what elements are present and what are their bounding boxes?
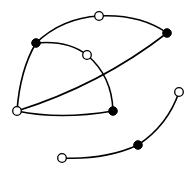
hollow-node-n7 bbox=[58, 154, 67, 163]
filled-node-n6 bbox=[109, 107, 118, 116]
edge-layer bbox=[17, 16, 179, 158]
node-layer bbox=[13, 12, 184, 163]
hollow-node-n5 bbox=[13, 107, 22, 116]
filled-node-n3 bbox=[163, 29, 172, 38]
filled-node-n8 bbox=[134, 141, 143, 150]
hollow-node-n4 bbox=[83, 51, 92, 60]
edge-n5-n6 bbox=[17, 111, 113, 116]
edge-n7-n9 bbox=[62, 92, 179, 158]
hollow-node-n9 bbox=[175, 88, 184, 97]
graph-diagram bbox=[0, 0, 192, 170]
hollow-node-n2 bbox=[95, 12, 104, 21]
filled-node-n1 bbox=[32, 39, 41, 48]
edge-n1-n5 bbox=[17, 43, 36, 111]
